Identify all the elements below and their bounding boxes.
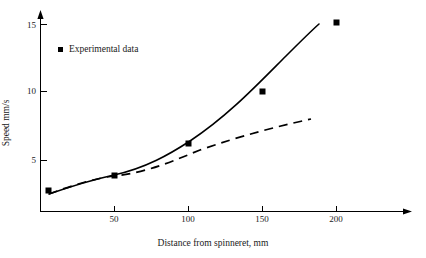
data-point-marker	[334, 20, 340, 26]
y-axis-title: Speed mm/s	[1, 100, 11, 147]
x-tick-label-150: 150	[255, 215, 269, 224]
x-axis-ticks	[115, 206, 337, 212]
data-point-marker	[112, 173, 118, 179]
chart-plot-area	[0, 0, 426, 258]
y-tick-label-5: 5	[22, 156, 36, 165]
x-tick-label-200: 200	[329, 215, 343, 224]
x-tick-label-100: 100	[181, 215, 195, 224]
data-point-marker	[260, 89, 266, 95]
y-tick-label-10: 10	[22, 87, 36, 96]
x-axis-arrow-icon	[403, 208, 412, 214]
chart-legend: Experimental data	[58, 44, 138, 54]
chart-figure: 50 100 150 200 5 10 15 Distance from spi…	[0, 0, 426, 258]
y-axis-arrow-icon	[37, 10, 43, 19]
legend-label-experimental-data: Experimental data	[69, 44, 138, 54]
y-tick-label-15: 15	[22, 21, 36, 30]
x-tick-label-50: 50	[110, 215, 119, 224]
legend-marker-square-icon	[58, 47, 63, 52]
x-axis-title: Distance from spinneret, mm	[158, 238, 269, 248]
data-point-marker	[46, 188, 52, 194]
data-point-marker	[186, 141, 192, 147]
series-dashed-prediction-line	[49, 119, 311, 194]
y-axis-ticks	[41, 25, 48, 161]
